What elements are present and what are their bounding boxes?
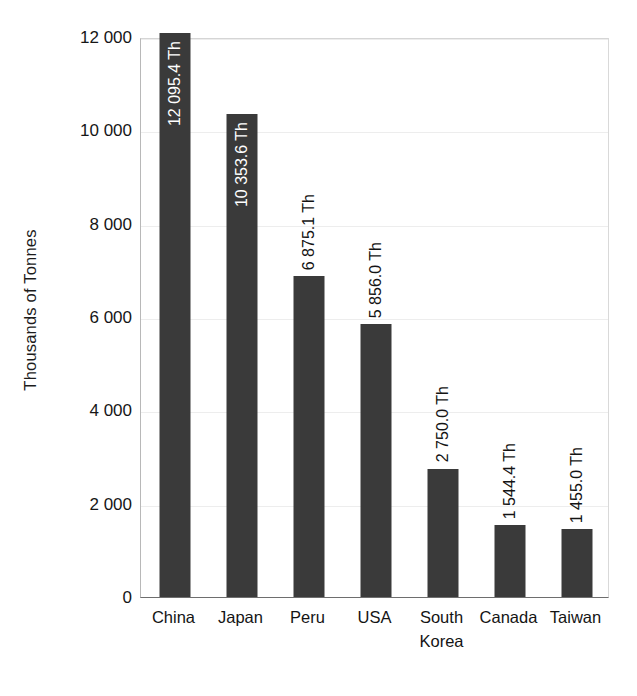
x-axis-tick-label: South Korea [408,606,475,654]
bar-group: 6 875.1 Th [275,39,342,597]
bar-group: 1 455.0 Th [543,39,610,597]
x-axis-tick-label: China [140,606,207,630]
bar[interactable] [360,324,391,597]
y-axis-tick-label: 12 000 [44,28,132,48]
bar-value-label: 12 095.4 Th [166,41,184,126]
x-axis-tick-label: Peru [274,606,341,630]
y-axis-tick-labels: 02 0004 0006 0008 00010 00012 000 [42,0,132,696]
bar-value-label: 10 353.6 Th [233,122,251,207]
bar-group: 5 856.0 Th [342,39,409,597]
y-axis-tick-label: 10 000 [44,121,132,141]
x-axis-tick-labels: ChinaJapanPeruUSASouth KoreaCanadaTaiwan [140,606,609,686]
bar-value-label: 1 455.0 Th [568,447,586,523]
y-axis-tick-label: 0 [44,588,132,608]
y-axis-tick-label: 8 000 [44,215,132,235]
bar-value-label: 1 544.4 Th [501,443,519,519]
bar[interactable] [427,469,458,597]
y-axis-tick-label: 6 000 [44,308,132,328]
x-axis-tick-label: Canada [475,606,542,630]
bar-group: 10 353.6 Th [208,39,275,597]
bar-group: 1 544.4 Th [476,39,543,597]
bar-value-label: 6 875.1 Th [300,194,318,270]
bar-value-label: 2 750.0 Th [434,386,452,462]
x-axis-tick-label: Japan [207,606,274,630]
x-axis-tick-label: Taiwan [542,606,609,630]
y-axis-tick-label: 2 000 [44,495,132,515]
bar-value-label: 5 856.0 Th [367,242,385,318]
bar[interactable] [494,525,525,597]
bar[interactable] [561,529,592,597]
plot-area: 12 095.4 Th10 353.6 Th6 875.1 Th5 856.0 … [140,38,609,598]
x-axis-tick-label: USA [341,606,408,630]
bar-group: 2 750.0 Th [409,39,476,597]
bar-group: 12 095.4 Th [141,39,208,597]
bar[interactable] [293,276,324,597]
bar-chart: Thousands of Tonnes 02 0004 0006 0008 00… [0,0,637,696]
y-axis-tick-label: 4 000 [44,401,132,421]
